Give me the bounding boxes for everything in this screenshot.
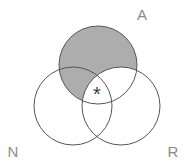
set-label-n: N xyxy=(8,143,19,160)
center-asterisk-marker: * xyxy=(93,83,101,105)
venn-diagram-svg: * A N R xyxy=(0,0,193,165)
venn-diagram: * A N R xyxy=(0,0,193,165)
set-label-a: A xyxy=(137,6,147,23)
set-label-r: R xyxy=(168,143,179,160)
